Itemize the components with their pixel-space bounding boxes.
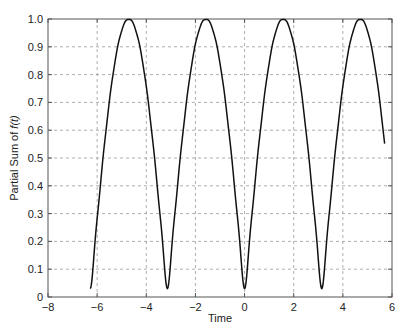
y-tick-label: 0.4 (28, 180, 43, 192)
y-tick-label: 0.8 (28, 69, 43, 81)
y-tick-label: 0.7 (28, 96, 43, 108)
y-axis-label: Partial Sum of f(t) (8, 115, 20, 201)
y-axis-label-prefix: Partial Sum of (8, 129, 20, 201)
y-tick-label: 0.9 (28, 41, 43, 53)
chart: −8−6−4−20246 00.10.20.30.40.50.60.70.80.… (0, 0, 410, 334)
y-tick-label: 0.1 (28, 263, 43, 275)
x-tick-label: 4 (340, 301, 346, 313)
y-tick-label: 0 (37, 291, 43, 303)
data-line (90, 19, 384, 288)
y-tick-label: 0.5 (28, 152, 43, 164)
y-tick-label: 0.6 (28, 124, 43, 136)
x-tick-label: −8 (42, 301, 55, 313)
y-axis-label-func: f(t) (8, 115, 20, 129)
x-tick-label: −4 (140, 301, 153, 313)
x-tick-label: 2 (291, 301, 297, 313)
x-tick-label: 0 (242, 301, 248, 313)
y-tick-label: 0.2 (28, 235, 43, 247)
x-tick-label: −2 (189, 301, 202, 313)
y-tick-label: 0.3 (28, 208, 43, 220)
x-tick-label: 6 (389, 301, 395, 313)
y-tick-labels: 00.10.20.30.40.50.60.70.80.91.0 (28, 13, 43, 303)
y-tick-label: 1.0 (28, 13, 43, 25)
x-tick-label: −6 (91, 301, 104, 313)
x-axis-label: Time (208, 312, 232, 324)
